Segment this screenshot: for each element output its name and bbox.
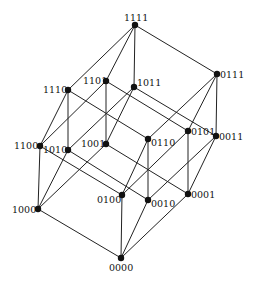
vertex-label-1010: 1010 <box>43 144 67 155</box>
nodes-group <box>35 22 220 261</box>
edge-0010-0000 <box>121 200 148 258</box>
vertex-label-0110: 0110 <box>151 137 175 148</box>
edge-1010-0010 <box>68 150 148 200</box>
edge-1101-0101 <box>106 81 188 131</box>
edge-1111-1011 <box>134 25 135 87</box>
edge-1111-0111 <box>135 25 217 74</box>
vertex-0000 <box>118 255 124 261</box>
vertex-label-0001: 0001 <box>191 189 215 200</box>
vertex-label-0111: 0111 <box>220 69 244 80</box>
edge-0111-0101 <box>188 74 217 131</box>
vertex-label-1100: 1100 <box>14 140 38 151</box>
hypercube-diagram: 1111111011011011011111001010100101100101… <box>0 0 256 285</box>
vertex-label-0100: 0100 <box>97 194 121 205</box>
edge-1110-0110 <box>68 90 148 139</box>
vertex-label-0011: 0011 <box>219 131 243 142</box>
edge-1100-1000 <box>38 146 40 209</box>
edge-1111-1101 <box>106 25 135 81</box>
vertex-label-1001: 1001 <box>81 138 105 149</box>
vertex-label-1000: 1000 <box>12 204 36 215</box>
vertex-label-1111: 1111 <box>124 12 148 23</box>
edge-1001-0001 <box>106 144 188 194</box>
vertex-label-1110: 1110 <box>43 84 67 95</box>
edges-group <box>38 25 217 258</box>
edge-0111-0011 <box>216 74 217 136</box>
vertex-label-1011: 1011 <box>137 77 161 88</box>
edge-1110-1100 <box>40 90 68 146</box>
vertex-label-0101: 0101 <box>191 126 215 137</box>
vertex-label-0010: 0010 <box>151 198 175 209</box>
vertex-label-1101: 1101 <box>83 75 107 86</box>
edge-1010-1000 <box>38 150 68 209</box>
edge-1000-0000 <box>38 209 121 258</box>
vertex-label-0000: 0000 <box>109 262 133 273</box>
edge-0011-0001 <box>188 136 216 194</box>
